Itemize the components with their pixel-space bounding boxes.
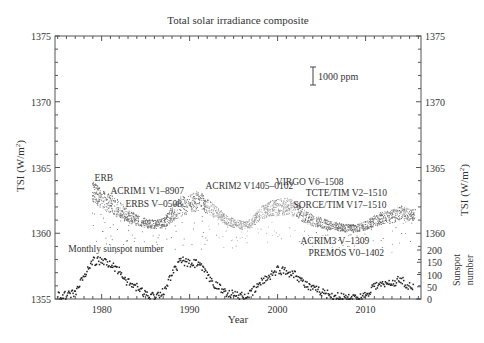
series-annotation: ERB [95,173,113,183]
scale-bar: 1000 ppm [310,67,359,85]
y-axis-label-right: TSI (W/m2) [458,164,471,216]
plot-area [55,36,421,299]
axes-layer: 1980199020002010135513601365137013751360… [31,31,445,315]
tsi-chart: Total solar irradiance composite 1980199… [0,0,484,343]
series-annotation: PREMOS V0–1402 [308,248,384,258]
sunspot-tick-label: 200 [427,245,442,256]
sunspot-axis-label-2: number [464,254,475,285]
y-right-tick-label: 1375 [425,31,445,42]
y-axis-label-left: TSI (W/m2) [14,140,27,192]
sunspot-tick-label: 100 [427,270,442,281]
y-right-tick-label: 1360 [425,228,445,239]
series-annotation: ACRIM1 V1–8907 [110,186,184,196]
y-tick-label: 1375 [31,31,51,42]
scale-bar-label: 1000 ppm [318,71,359,82]
series-annotation: ERBS V–0508 [125,199,182,209]
sunspot-tick-label: 150 [427,257,442,268]
series-annotation: SORCE/TIM V17–1510 [293,200,386,210]
y-tick-label: 1370 [31,97,51,108]
x-tick-label: 2000 [268,304,288,315]
sunspot-tick-label: 0 [427,294,432,305]
x-tick-label: 2010 [356,304,376,315]
y-tick-label: 1360 [31,228,51,239]
sunspot-tick-label: 50 [427,282,437,293]
y-tick-label: 1355 [31,294,51,305]
sunspot-axis-label: Sunspot [451,254,462,286]
series-annotation: VIRGO V6–1508 [276,177,344,187]
y-tick-label: 1365 [31,163,51,174]
y-right-tick-label: 1365 [425,163,445,174]
y-right-tick-label: 1370 [425,97,445,108]
x-axis-label: Year [228,313,249,325]
x-tick-label: 1990 [180,304,200,315]
chart-title: Total solar irradiance composite [167,14,308,26]
series-annotation: Monthly sunspot number [68,244,164,254]
series-annotation: ACRIM3 V–1309 [300,236,369,246]
series-annotation: TCTE/TIM V2–1510 [306,188,388,198]
x-tick-label: 1980 [92,304,112,315]
